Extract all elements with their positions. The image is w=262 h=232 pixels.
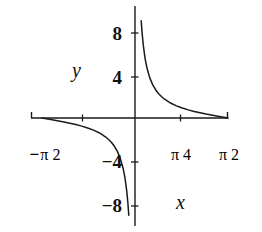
fraction-pi-4: π 4 [171,146,191,164]
x-tick-label-pi-over-2: π 2 [210,131,248,179]
fraction-denominator: 4 [183,146,191,163]
y-tick-label-8: 8 [100,24,122,43]
fraction-numerator: π [40,146,48,163]
y-tick-label-neg-4: −4 [89,152,122,171]
fraction-pi-2: π 2 [219,146,239,164]
x-axis-group [31,112,228,122]
fraction-denominator: 2 [52,146,60,163]
plot-canvas [0,0,262,232]
y-axis-group [131,6,139,226]
minus-sign-glyph: − [30,145,40,165]
x-tick-label-neg-pi-over-2: − π 2 [14,131,76,179]
y-tick-label-neg-8: −8 [89,196,122,215]
y-tick-label-4: 4 [100,68,122,87]
x-axis-name-label: x [176,192,185,212]
x-tick-label-pi-over-4: π 4 [162,131,200,179]
fraction-numerator: π [219,146,227,163]
fraction-denominator: 2 [231,146,239,163]
curve-cot-positive-branch [141,21,228,118]
fraction-neg-pi-2: π 2 [40,146,60,164]
fraction-numerator: π [171,146,179,163]
y-axis-name-label: y [72,60,81,80]
cotangent-graph-figure: 8 4 −4 −8 y x − π 2 π 4 π 2 [0,0,262,232]
